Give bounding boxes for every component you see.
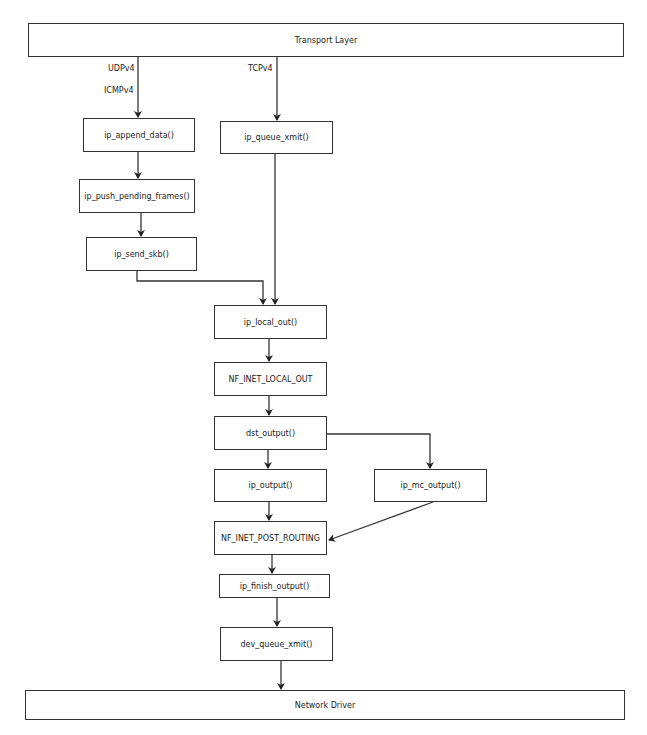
nf-inet-post-routing-label: NF_INET_POST_ROUTING <box>221 534 320 543</box>
tcpv4-label: TCPv4 <box>248 64 273 73</box>
ip-output-label: ip_output() <box>249 481 293 490</box>
ip-push-pending-frames-label: ip_push_pending_frames() <box>84 192 189 201</box>
ip-output-node: ip_output() <box>214 469 327 502</box>
udpv4-label: UDPv4 <box>108 64 135 73</box>
dev-queue-xmit-label: dev_queue_xmit() <box>241 640 313 649</box>
ip-append-data-label: ip_append_data() <box>104 131 174 140</box>
dst-output-label: dst_output() <box>246 429 295 438</box>
transport-layer-label: Transport Layer <box>295 36 357 45</box>
ip-local-out-node: ip_local_out() <box>214 305 327 339</box>
nf-inet-post-routing-node: NF_INET_POST_ROUTING <box>214 521 327 555</box>
ip-finish-output-node: ip_finish_output() <box>219 574 330 598</box>
icmpv4-label: ICMPv4 <box>104 86 134 95</box>
dst-output-node: dst_output() <box>214 416 327 450</box>
ip-local-out-label: ip_local_out() <box>244 318 297 327</box>
ip-queue-xmit-node: ip_queue_xmit() <box>220 121 333 154</box>
ip-push-pending-frames-node: ip_push_pending_frames() <box>79 179 195 213</box>
network-driver-label: Network Driver <box>295 701 356 710</box>
nf-inet-local-out-label: NF_INET_LOCAL_OUT <box>229 375 313 384</box>
network-driver-box: Network Driver <box>25 690 625 720</box>
ip-queue-xmit-label: ip_queue_xmit() <box>244 133 309 142</box>
dev-queue-xmit-node: dev_queue_xmit() <box>220 627 333 661</box>
ip-mc-output-label: ip_mc_output() <box>400 481 460 490</box>
ip-finish-output-label: ip_finish_output() <box>240 582 310 591</box>
ip-mc-output-node: ip_mc_output() <box>374 469 487 502</box>
ip-send-skb-node: ip_send_skb() <box>86 237 197 271</box>
nf-inet-local-out-node: NF_INET_LOCAL_OUT <box>214 362 327 396</box>
ip-send-skb-label: ip_send_skb() <box>114 250 169 259</box>
transport-layer-box: Transport Layer <box>28 23 624 57</box>
ip-append-data-node: ip_append_data() <box>83 118 195 152</box>
